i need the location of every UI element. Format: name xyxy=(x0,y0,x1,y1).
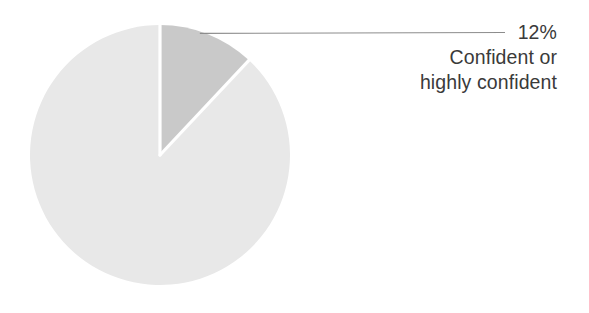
callout-label: 12% Confident or highly confident xyxy=(297,20,557,95)
callout-percent: 12% xyxy=(297,20,557,45)
pie-slices xyxy=(30,25,290,286)
pie-chart-figure: 12% Confident or highly confident xyxy=(0,0,589,313)
callout-line-2: Confident or xyxy=(297,45,557,70)
callout-line-3: highly confident xyxy=(297,70,557,95)
